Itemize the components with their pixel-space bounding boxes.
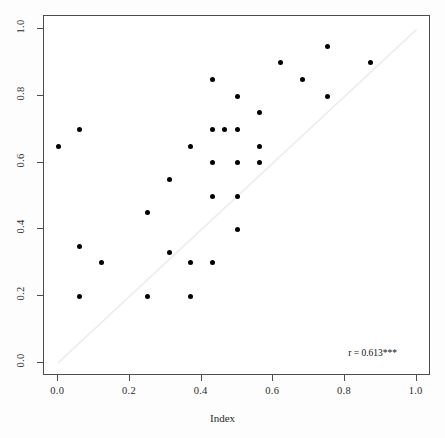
data-point — [325, 44, 330, 49]
x-axis-tick-label: 0.2 — [122, 385, 136, 396]
data-point — [278, 60, 283, 65]
y-axis-tick-label: 0.0 — [15, 349, 26, 371]
data-point — [210, 160, 215, 165]
data-point — [368, 60, 373, 65]
y-axis-tick — [37, 362, 43, 363]
y-axis-tick-label: 0.4 — [15, 216, 26, 238]
data-point — [257, 144, 262, 149]
data-point — [210, 77, 215, 82]
x-axis-tick-label: 0.0 — [50, 385, 64, 396]
data-point — [99, 260, 104, 265]
y-axis-tick-label: 0.6 — [15, 149, 26, 171]
y-axis-tick-label: 1.0 — [15, 16, 26, 38]
x-axis-tick — [272, 375, 273, 381]
data-point — [235, 94, 240, 99]
y-axis-tick — [37, 228, 43, 229]
x-axis-tick — [416, 375, 417, 381]
data-point — [235, 127, 240, 132]
data-point — [77, 294, 82, 299]
x-axis-tick — [201, 375, 202, 381]
data-point — [167, 177, 172, 182]
data-point — [77, 244, 82, 249]
data-point — [145, 294, 150, 299]
x-axis-tick-label: 1.0 — [409, 385, 423, 396]
data-points-layer — [44, 16, 429, 374]
data-point — [167, 250, 172, 255]
data-point — [145, 210, 150, 215]
x-axis-tick-label: 0.4 — [194, 385, 208, 396]
data-point — [222, 127, 227, 132]
data-point — [325, 94, 330, 99]
y-axis-tick-label: 0.2 — [15, 283, 26, 305]
y-axis-tick — [37, 295, 43, 296]
data-point — [56, 144, 61, 149]
data-point — [210, 260, 215, 265]
y-axis-tick — [37, 162, 43, 163]
plot-panel — [43, 15, 430, 375]
y-axis-tick-label: 0.8 — [15, 83, 26, 105]
y-axis-tick — [37, 28, 43, 29]
x-axis-tick — [129, 375, 130, 381]
data-point — [235, 194, 240, 199]
x-axis-label: Index — [0, 412, 445, 424]
data-point — [257, 160, 262, 165]
y-axis-tick — [37, 95, 43, 96]
data-point — [235, 227, 240, 232]
x-axis-tick-label: 0.6 — [265, 385, 279, 396]
data-point — [188, 294, 193, 299]
data-point — [300, 77, 305, 82]
data-point — [188, 260, 193, 265]
x-axis-tick — [57, 375, 58, 381]
scatter-plot-figure: 0.00.20.40.60.81.00.00.20.40.60.81.0 r =… — [0, 0, 445, 438]
data-point — [210, 194, 215, 199]
data-point — [188, 144, 193, 149]
correlation-annotation: r = 0.613*** — [348, 348, 397, 358]
data-point — [257, 110, 262, 115]
data-point — [235, 160, 240, 165]
x-axis-tick-label: 0.8 — [337, 385, 351, 396]
x-axis-tick — [344, 375, 345, 381]
data-point — [210, 127, 215, 132]
data-point — [77, 127, 82, 132]
